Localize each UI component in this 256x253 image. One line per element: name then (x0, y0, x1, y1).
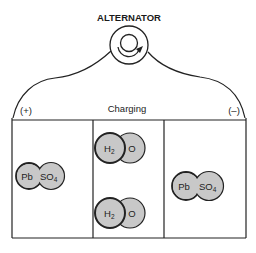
svg-text:Pb: Pb (21, 171, 33, 182)
positive-terminal-label: (+) (20, 105, 32, 116)
alternator-title: ALTERNATOR (97, 12, 161, 23)
svg-text:O: O (128, 208, 135, 219)
negative-terminal-label: (–) (228, 105, 240, 116)
alternator-icon (110, 26, 148, 64)
charging-label: Charging (108, 103, 147, 114)
lead-sulfate-molecule-positive: Pb SO4 (16, 163, 65, 190)
svg-text:Pb: Pb (178, 181, 190, 192)
charging-diagram: ALTERNATOR (+) (–) Charging Pb SO4 H2 O (0, 0, 256, 253)
lead-sulfate-molecule-negative: Pb SO4 (172, 172, 224, 201)
water-molecule-bottom: H2 O (95, 198, 145, 228)
svg-text:O: O (128, 143, 135, 154)
water-molecule-top: H2 O (95, 133, 145, 163)
